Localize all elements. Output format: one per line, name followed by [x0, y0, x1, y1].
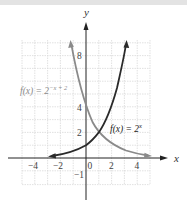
x-tick-2: 2 — [109, 161, 114, 171]
series-1-label-exp: x — [138, 122, 142, 129]
x-axis-label: x — [173, 152, 179, 164]
y-tick-2: 2 — [77, 128, 82, 138]
series-label-2-x: f(x) = 2x — [110, 122, 142, 135]
arrow-head-gray-right-icon — [144, 153, 152, 158]
series-1-label-main: f(x) = 2 — [110, 124, 139, 135]
curve-f-2-neg-x-plus-2 — [71, 44, 148, 155]
y-axis-label: y — [83, 6, 89, 18]
series-label-2-neg-x-plus-2: f(x) = 2−x + 2 — [20, 84, 68, 97]
y-tick-neg1: −1 — [74, 170, 84, 180]
y-tick-8: 8 — [77, 51, 82, 61]
curve-f-2-x — [52, 44, 126, 156]
graph: y x −4 −2 0 2 4 8 4 2 −1 f(x) = 2−x + 2 … — [0, 0, 187, 213]
series-2-label-exp: −x + 2 — [49, 84, 68, 91]
svg-text:f(x) = 2x: f(x) = 2x — [110, 122, 142, 135]
x-tick-neg2: −2 — [53, 161, 63, 171]
y-tick-4: 4 — [77, 103, 82, 113]
y-axis-arrow-icon — [84, 22, 89, 30]
x-tick-4: 4 — [135, 161, 140, 171]
svg-text:f(x) = 2−x + 2: f(x) = 2−x + 2 — [20, 84, 68, 97]
x-tick-0: 0 — [88, 161, 93, 171]
x-axis-arrow-icon — [160, 156, 168, 161]
x-tick-neg4: −4 — [28, 161, 38, 171]
series-2-label-main: f(x) = 2 — [20, 86, 49, 97]
